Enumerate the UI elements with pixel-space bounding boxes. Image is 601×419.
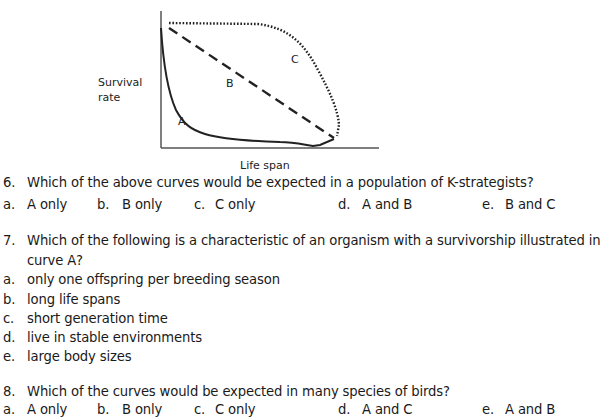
option-letter: a. xyxy=(3,402,15,417)
curve-c xyxy=(169,23,339,136)
option-letter: c. xyxy=(194,197,205,212)
option-letter: e. xyxy=(482,402,494,417)
option-c[interactable]: C only xyxy=(215,402,255,417)
option-a[interactable]: only one offspring per breeding season xyxy=(27,272,280,287)
option-letter: a. xyxy=(3,197,15,212)
question-text: Which of the above curves would be expec… xyxy=(27,175,534,190)
curve-a xyxy=(161,28,334,146)
curve-c-label: C xyxy=(291,53,299,66)
curve-b-label: B xyxy=(226,77,234,90)
option-letter: e. xyxy=(3,349,15,364)
option-letter: e. xyxy=(482,197,494,212)
x-axis-label: Life span xyxy=(240,159,290,172)
question-number: 7. xyxy=(3,233,15,248)
option-d[interactable]: A and C xyxy=(362,402,412,417)
question-text-line2: curve A? xyxy=(27,253,83,268)
question-text-line1: Which of the following is a characterist… xyxy=(27,233,601,248)
y-axis-label-line2: rate xyxy=(98,91,120,104)
question-number: 6. xyxy=(3,175,15,190)
option-letter: c. xyxy=(194,402,205,417)
option-letter: d. xyxy=(338,402,350,417)
option-e[interactable]: B and C xyxy=(505,197,555,212)
option-c[interactable]: C only xyxy=(215,197,255,212)
curve-a-label: A xyxy=(178,115,186,128)
option-letter: b. xyxy=(3,292,15,307)
survivorship-curve-figure xyxy=(0,0,587,170)
option-letter: d. xyxy=(3,330,15,345)
y-axis-label-line1: Survival xyxy=(98,76,142,89)
option-a[interactable]: A only xyxy=(27,197,67,212)
option-b[interactable]: B only xyxy=(122,402,162,417)
option-c[interactable]: short generation time xyxy=(27,311,168,326)
option-d[interactable]: live in stable environments xyxy=(27,330,202,345)
option-letter: a. xyxy=(3,272,15,287)
option-e[interactable]: A and B xyxy=(505,402,555,417)
option-letter: b. xyxy=(97,197,109,212)
option-e[interactable]: large body sizes xyxy=(27,349,131,364)
option-b[interactable]: B only xyxy=(122,197,162,212)
option-d[interactable]: A and B xyxy=(362,197,412,212)
option-b[interactable]: long life spans xyxy=(27,292,120,307)
question-number: 8. xyxy=(3,384,15,399)
option-a[interactable]: A only xyxy=(27,402,67,417)
question-text: Which of the curves would be expected in… xyxy=(27,384,450,399)
option-letter: b. xyxy=(97,402,109,417)
option-letter: d. xyxy=(338,197,350,212)
curve-b xyxy=(169,28,334,138)
option-letter: c. xyxy=(3,311,14,326)
